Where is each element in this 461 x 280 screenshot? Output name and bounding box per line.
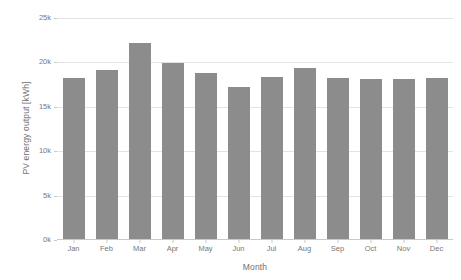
bar-slot: [123, 18, 156, 240]
y-tick-label: 0k: [25, 236, 51, 244]
bar-chart: PV energy output [kWh] 0k5k10k15k20k25k …: [0, 0, 461, 280]
bar[interactable]: [294, 68, 316, 240]
x-tickmark: [271, 240, 272, 243]
y-tick-label: 25k: [25, 14, 51, 22]
bar-slot: [90, 18, 123, 240]
bar-slot: [189, 18, 222, 240]
bar[interactable]: [195, 73, 217, 240]
bar[interactable]: [129, 43, 151, 240]
bar-slot: [387, 18, 420, 240]
plot-area: [57, 18, 453, 240]
x-tickmark: [403, 240, 404, 243]
bar-slot: [57, 18, 90, 240]
y-tick-label: 15k: [25, 103, 51, 111]
bars-layer: [57, 18, 453, 240]
x-tickmark: [436, 240, 437, 243]
x-tickmark: [73, 240, 74, 243]
bar[interactable]: [162, 63, 184, 240]
x-tickmark: [106, 240, 107, 243]
bar-slot: [222, 18, 255, 240]
bar[interactable]: [228, 87, 250, 240]
x-axis-title: Month: [57, 262, 453, 272]
x-tickmark: [370, 240, 371, 243]
y-axis-title: PV energy output [kWh]: [18, 8, 34, 248]
x-tickmark: [172, 240, 173, 243]
bar[interactable]: [96, 70, 118, 240]
bar-slot: [288, 18, 321, 240]
bar[interactable]: [261, 77, 283, 240]
x-tickmark: [337, 240, 338, 243]
bar[interactable]: [426, 78, 448, 241]
y-tick-label: 20k: [25, 58, 51, 66]
x-tickmark: [304, 240, 305, 243]
bar-slot: [156, 18, 189, 240]
y-tickmark: [54, 240, 57, 241]
x-tickmark: [205, 240, 206, 243]
bar-slot: [321, 18, 354, 240]
x-tickmark: [139, 240, 140, 243]
x-tickmark: [238, 240, 239, 243]
bar[interactable]: [393, 79, 415, 240]
x-axis-line: [57, 239, 453, 240]
bar-slot: [255, 18, 288, 240]
bar[interactable]: [327, 78, 349, 240]
y-tick-label: 5k: [25, 192, 51, 200]
bar-slot: [420, 18, 453, 240]
bar[interactable]: [360, 79, 382, 240]
bar[interactable]: [63, 78, 85, 241]
y-tick-label: 10k: [25, 147, 51, 155]
x-tick-label: Dec: [417, 244, 457, 253]
bar-slot: [354, 18, 387, 240]
